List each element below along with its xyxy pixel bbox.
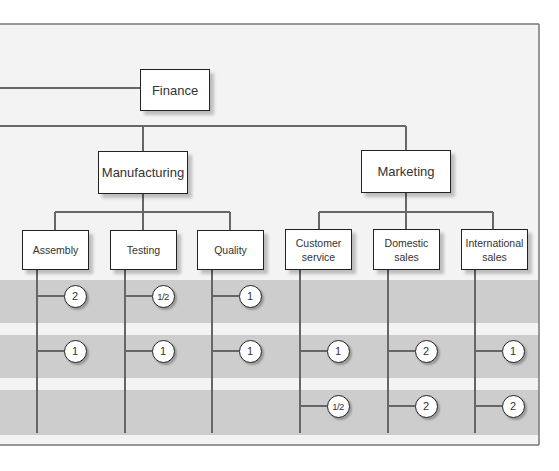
quality-staff-marker: 1 xyxy=(239,285,262,308)
manufacturing-box: Manufacturing xyxy=(98,151,188,194)
testing-staff-marker: 1 xyxy=(152,340,175,363)
customer-service-box: Customer service xyxy=(285,229,352,270)
quality-box: Quality xyxy=(197,230,264,270)
finance-box: Finance xyxy=(140,69,210,111)
customer-service-label: Customer service xyxy=(294,236,343,264)
international-sales-box: International sales xyxy=(461,229,528,270)
customer-service-staff-marker: 1/2 xyxy=(327,395,350,418)
quality-label: Quality xyxy=(214,243,247,257)
domestic-sales-box: Domestic sales xyxy=(373,229,440,270)
domestic-sales-staff-marker: 2 xyxy=(415,340,438,363)
quality-staff-marker: 1 xyxy=(239,340,262,363)
international-sales-label: International sales xyxy=(464,236,525,264)
marketing-box: Marketing xyxy=(361,150,451,193)
assembly-staff-marker: 2 xyxy=(64,285,87,308)
international-sales-staff-marker: 1 xyxy=(502,340,525,363)
customer-service-staff-marker: 1 xyxy=(327,340,350,363)
marketing-label: Marketing xyxy=(377,164,434,179)
domestic-sales-staff-marker: 2 xyxy=(415,395,438,418)
testing-box: Testing xyxy=(110,230,177,270)
testing-label: Testing xyxy=(127,243,160,257)
international-sales-staff-marker: 2 xyxy=(502,395,525,418)
assembly-box: Assembly xyxy=(22,230,89,270)
assembly-label: Assembly xyxy=(33,243,79,257)
finance-label: Finance xyxy=(152,83,198,98)
testing-staff-marker: 1/2 xyxy=(152,285,175,308)
domestic-sales-label: Domestic sales xyxy=(384,236,429,264)
band-row-3 xyxy=(0,390,539,435)
assembly-staff-marker: 1 xyxy=(64,340,87,363)
manufacturing-label: Manufacturing xyxy=(102,165,184,180)
